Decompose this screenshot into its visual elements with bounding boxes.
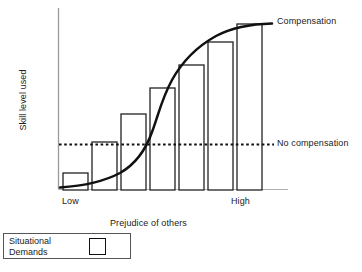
bar-5 [179,65,204,190]
legend-label-line1: Situational [9,236,51,247]
chart-canvas [0,0,362,272]
y-axis-label: Skill level used [18,55,28,145]
annotation-compensation: Compensation [277,16,336,26]
figure-container: Skill level used Prejudice of others Low… [0,0,362,272]
x-axis-label: Prejudice of others [110,218,187,228]
legend-swatch-open-square [89,238,106,255]
x-tick-label-low: Low [62,196,79,206]
figure-caption [0,264,362,272]
legend: Situational Demands [3,233,131,259]
x-tick-label-high: High [231,196,250,206]
bar-6 [208,42,233,190]
legend-label: Situational Demands [9,236,51,257]
legend-label-line2: Demands [9,247,51,258]
bar-series-situational-demands [63,24,262,190]
annotation-no-compensation: No compensation [277,138,349,148]
bar-7 [237,24,262,190]
